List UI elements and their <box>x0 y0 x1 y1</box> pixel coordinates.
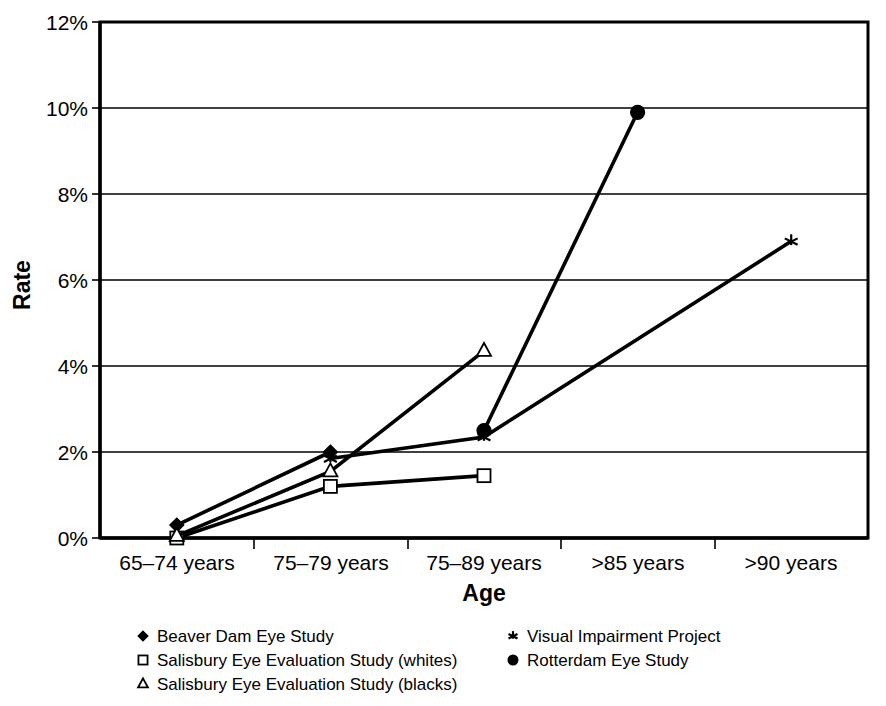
data-point-marker <box>477 424 491 438</box>
y-tick-label: 4% <box>58 355 88 378</box>
y-tick-label: 0% <box>58 527 88 550</box>
y-tick-label: 12% <box>46 11 88 34</box>
data-point-marker <box>324 480 337 493</box>
legend-item: Rotterdam Eye Study <box>508 651 689 670</box>
x-axis-title: Age <box>462 580 505 606</box>
legend-item: Salisbury Eye Evaluation Study (whites) <box>138 651 457 670</box>
y-tick-label: 10% <box>46 97 88 120</box>
legend-label: Beaver Dam Eye Study <box>157 627 334 646</box>
data-point-marker <box>631 105 645 119</box>
legend-item: Beaver Dam Eye Study <box>138 627 334 646</box>
data-point-marker <box>138 655 147 664</box>
line-chart: 12% 10% 8% 6% 4% 2% 0% Rate 65–74 years … <box>0 0 886 706</box>
legend-item: Salisbury Eye Evaluation Study (blacks) <box>138 675 457 694</box>
chart-figure: 12% 10% 8% 6% 4% 2% 0% Rate 65–74 years … <box>0 0 886 706</box>
data-point-marker <box>508 631 517 639</box>
x-tick-label: 65–74 years <box>119 551 235 574</box>
x-tick-label: 75–79 years <box>273 551 389 574</box>
x-tick-label: 75–89 years <box>426 551 542 574</box>
x-tick-label: >85 years <box>592 551 685 574</box>
x-tick-labels: 65–74 years 75–79 years 75–89 years >85 … <box>119 551 837 574</box>
legend-label: Rotterdam Eye Study <box>527 651 689 670</box>
x-tick-label: >90 years <box>745 551 838 574</box>
chart-legend: Beaver Dam Eye StudySalisbury Eye Evalua… <box>138 627 721 694</box>
legend-label: Salisbury Eye Evaluation Study (blacks) <box>157 675 457 694</box>
data-point-marker <box>508 655 518 665</box>
y-axis-title: Rate <box>9 260 35 310</box>
data-point-marker <box>478 469 491 482</box>
legend-label: Salisbury Eye Evaluation Study (whites) <box>157 651 457 670</box>
legend-item: Visual Impairment Project <box>508 627 720 646</box>
y-tick-label: 8% <box>58 183 88 206</box>
y-tick-label: 6% <box>58 269 88 292</box>
y-tick-label: 2% <box>58 441 88 464</box>
data-point-marker <box>138 631 148 641</box>
data-point-marker <box>138 678 148 687</box>
legend-label: Visual Impairment Project <box>527 627 721 646</box>
y-tick-labels: 12% 10% 8% 6% 4% 2% 0% <box>46 11 88 550</box>
